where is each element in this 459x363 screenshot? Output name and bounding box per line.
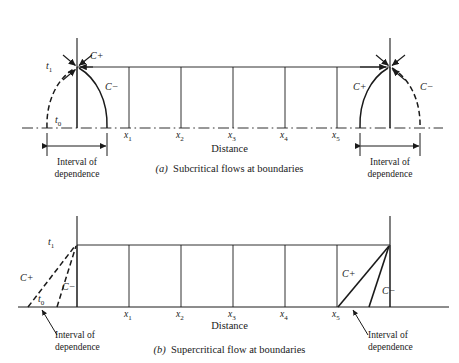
panel-b-caption: (b) Supercritical flow at boundaries [0,344,459,355]
panel-a-tick-x4: x4 [280,130,288,143]
panel-a-tick-x2: x2 [176,130,184,143]
panel-b-right-label-c-minus: C− [382,285,395,296]
panel-a-right-label-c-minus: C− [420,81,433,92]
panel-a-right-c-minus-curve [392,68,420,128]
panel-a-label-t0: t0 [55,114,61,128]
panel-a-right-label-c-plus: C+ [353,81,366,92]
panel-a-left-label-c-plus: C+ [90,50,103,61]
panel-b-right-c-minus-line [369,246,389,307]
panel-b-left-c-plus-line [28,246,75,307]
panel-b-left-c-minus-line [57,246,76,307]
panel-b-left-label-c-plus: C+ [20,272,33,283]
panel-a-boundary-verticals [77,38,390,128]
panel-b-label-t1: t1 [48,236,54,250]
panel-a-label-t1: t1 [46,60,52,74]
panel-a-right-apex-arrows [360,55,405,80]
panel-a-right-c-plus-curve [360,68,388,128]
figure-characteristics-diagram: t1 t0 C+ C− C+ C− x1 x2 x3 x4 x5 Distanc… [0,0,459,363]
panel-b-label-t0: t0 [38,293,44,307]
panel-b-right-label-c-plus: C+ [342,268,355,279]
panel-a-left-c-minus-curve [79,68,107,128]
panel-a-left-label-c-minus: C− [105,81,118,92]
panel-a-axis-label-distance: Distance [0,143,459,154]
panel-a-grid [77,67,390,128]
panel-a-caption: (a) Subcritical flows at boundaries [0,163,459,174]
panel-a-tick-x5: x5 [332,130,340,143]
panel-b-left-label-c-minus: C− [62,281,75,292]
panel-b-boundary-verticals [77,216,390,307]
panel-a-tick-x1: x1 [124,130,132,143]
panel-a-tick-x3: x3 [228,130,236,143]
